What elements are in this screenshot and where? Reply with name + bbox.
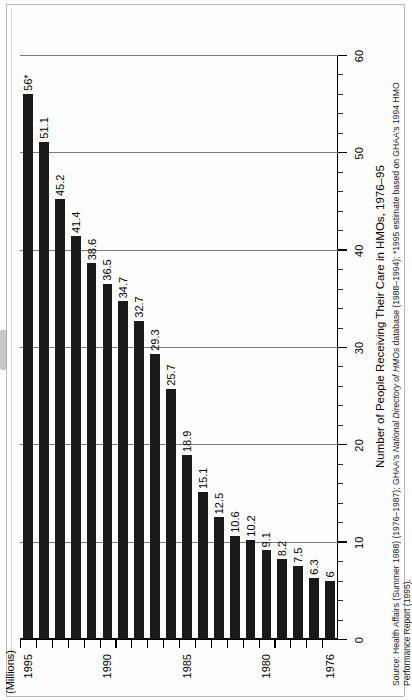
value-tick-minor [338,620,343,621]
value-tick-minor [338,425,343,426]
bar [214,517,224,639]
category-label: 1976 [324,654,336,678]
value-tick-major [338,639,347,640]
bar-value-label: 6 [324,571,336,577]
category-label: 1995 [22,654,34,678]
value-tick-minor [338,133,343,134]
category-tick [227,640,228,648]
value-tick-minor [338,230,343,231]
bar-value-label: 18.9 [181,431,193,452]
gridline [20,347,338,348]
source-text-a: Source: Health Affairs (Summer 1988) (19… [391,452,401,686]
source-note-line-1: Source: Health Affairs (Summer 1988) (19… [391,82,401,686]
category-tick [274,640,275,648]
category-tick [179,640,180,648]
value-tick-minor [338,211,343,212]
bar [230,536,240,639]
bar [23,94,33,639]
value-tick-major [338,444,347,445]
source-text-c: database (1988–1994); *1995 estimate bas… [391,82,401,347]
value-tick-minor [338,94,343,95]
bar-value-label: 29.3 [149,329,161,350]
category-tick [68,640,69,648]
value-tick-minor [338,366,343,367]
gridline [20,250,338,251]
gridline [20,152,338,153]
category-tick [243,640,244,648]
value-tick-label: 20 [353,439,365,452]
category-axis-line [337,56,339,640]
bar [118,301,128,639]
bar [134,321,144,639]
source-note-line-2: Performance Report (1995). [402,579,412,686]
value-tick-minor [338,464,343,465]
category-tick [147,640,148,648]
bar-value-label: 6.3 [308,559,320,574]
bar [277,559,287,639]
value-tick-minor [338,113,343,114]
category-label: 1980 [260,654,272,678]
bar-value-label: 10.6 [229,511,241,532]
bar [87,263,97,639]
category-tick [306,640,307,648]
value-tick-label: 0 [353,637,365,643]
category-tick [84,640,85,648]
category-tick [290,640,291,648]
bar-value-label: 12.5 [213,493,225,514]
bar-value-label: 8.2 [276,541,288,556]
category-tick [211,640,212,648]
bar-value-label: 15.1 [197,468,209,489]
value-tick-minor [338,522,343,523]
value-tick-minor [338,191,343,192]
value-tick-minor [338,308,343,309]
category-tick [163,640,164,648]
value-tick-minor [338,581,343,582]
category-tick [259,640,260,648]
axis-unit-label: (Millions) [4,650,16,694]
bar [246,540,256,639]
bar-value-label: 38.6 [86,239,98,260]
value-tick-minor [338,269,343,270]
bar-value-label: 45.2 [54,175,66,196]
value-tick-label: 10 [353,536,365,549]
bar-value-label: 32.7 [133,296,145,317]
value-tick-minor [338,289,343,290]
source-text-italic: National Directory of HMOs [391,348,401,453]
value-tick-major [338,152,347,153]
gridline [20,55,338,56]
value-tick-major [338,55,347,56]
value-tick-label: 40 [353,244,365,257]
bar [55,199,65,639]
bar [166,389,176,639]
value-tick-minor [338,172,343,173]
category-label: 1985 [181,654,193,678]
bar-value-label: 41.4 [70,212,82,233]
value-tick-minor [338,328,343,329]
bar [293,566,303,639]
bar [103,284,113,639]
bar [262,550,272,639]
bar-value-label: 56* [22,74,34,91]
value-tick-label: 50 [353,147,365,160]
chart-title: Number of People Receiving Their Care in… [374,165,386,468]
bar-value-label: 51.1 [38,117,50,138]
bar [182,455,192,639]
category-tick [52,640,53,648]
category-tick [131,640,132,648]
value-tick-minor [338,74,343,75]
category-label: 1990 [101,654,113,678]
category-tick [195,640,196,648]
bar [39,142,49,639]
category-tick [36,640,37,648]
bar-value-label: 25.7 [165,364,177,385]
category-tick [322,640,323,648]
value-tick-minor [338,600,343,601]
bar-chart-plot-area: 0102030405060 19761980198519901995 66.37… [20,56,338,640]
value-tick-major [338,541,347,542]
gridline [20,542,338,543]
value-tick-minor [338,561,343,562]
bar-value-label: 7.5 [292,548,304,563]
value-tick-minor [338,386,343,387]
